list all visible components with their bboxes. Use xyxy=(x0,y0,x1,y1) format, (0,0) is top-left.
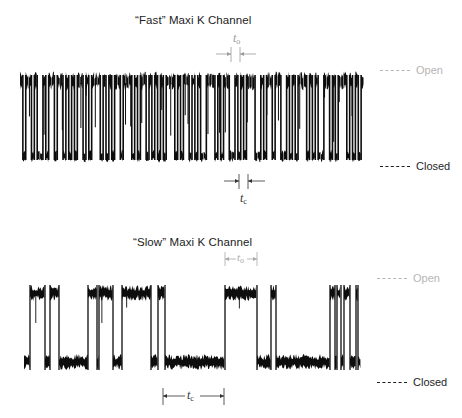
slow-open-legend: Open xyxy=(377,272,440,284)
open-label: Open xyxy=(413,272,440,284)
slow-channel-trace xyxy=(0,0,462,418)
closed-label: Closed xyxy=(413,376,447,388)
slow-trace-path xyxy=(24,285,360,370)
slow-to-label: to xyxy=(237,251,244,265)
dash-line-icon xyxy=(377,382,407,383)
slow-tc-label: tc xyxy=(187,388,194,403)
dash-line-icon xyxy=(377,278,407,279)
slow-closed-legend: Closed xyxy=(377,376,447,388)
slow-channel-panel: “Slow” Maxi K Channel to tc Open xyxy=(0,0,462,418)
